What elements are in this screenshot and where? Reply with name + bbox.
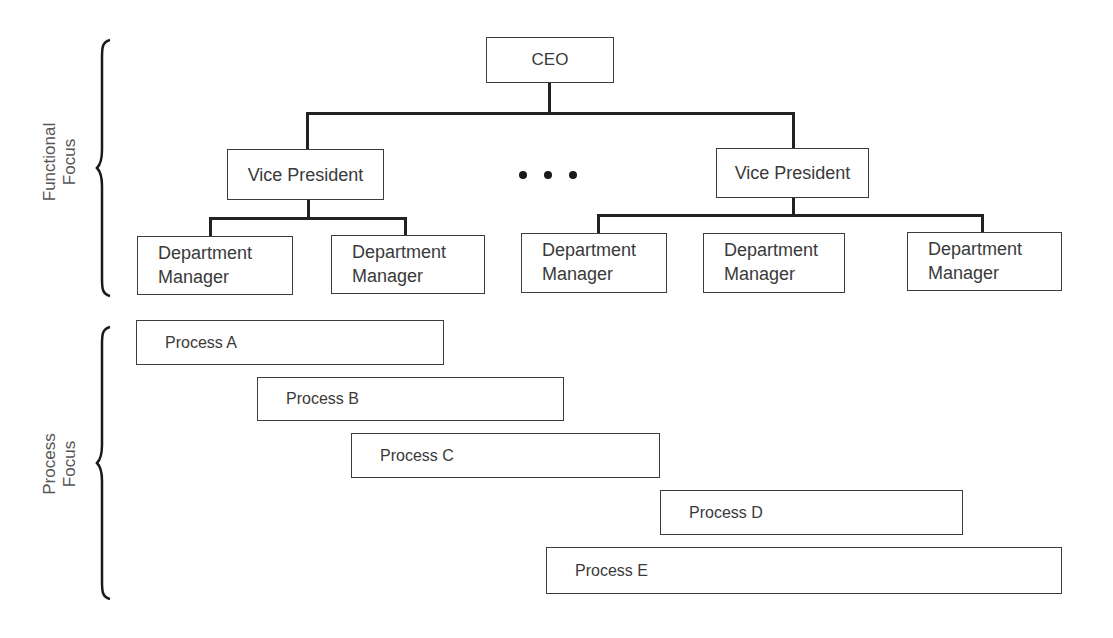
department-manager-box: Department Manager xyxy=(703,233,845,293)
vice-president-box-1: Vice President xyxy=(227,149,384,200)
vp2-drop-line xyxy=(792,112,795,148)
vp2-dm-bus-line xyxy=(597,214,984,217)
functional-focus-label-line2: Focus xyxy=(60,112,80,212)
dm5-drop-line xyxy=(981,214,984,232)
dm3-drop-line xyxy=(597,214,600,233)
dm-line2: Manager xyxy=(352,264,484,288)
process-focus-label: Process Focus xyxy=(40,414,84,514)
dm-line1: Department xyxy=(542,238,666,262)
process-label: Process B xyxy=(286,388,359,410)
dm1-drop-line xyxy=(209,217,212,236)
dm-line1: Department xyxy=(352,240,484,264)
vp1-dm-bus-line xyxy=(209,217,407,220)
department-manager-box: Department Manager xyxy=(521,233,667,293)
ceo-box: CEO xyxy=(486,37,614,83)
ceo-label: CEO xyxy=(532,49,569,71)
department-manager-box: Department Manager xyxy=(331,235,485,294)
vp1-drop-line xyxy=(306,112,309,149)
process-focus-label-line2: Focus xyxy=(60,414,80,514)
process-focus-brace-icon xyxy=(96,325,116,601)
process-focus-label-line1: Process xyxy=(40,414,60,514)
process-label: Process A xyxy=(165,332,237,354)
dm2-drop-line xyxy=(404,217,407,235)
dm-line1: Department xyxy=(724,238,844,262)
process-b-box: Process B xyxy=(257,377,564,421)
dm-line2: Manager xyxy=(158,265,292,289)
dm-line1: Department xyxy=(158,241,292,265)
department-manager-box: Department Manager xyxy=(907,232,1062,291)
process-c-box: Process C xyxy=(351,433,660,478)
process-label: Process D xyxy=(689,502,763,524)
dm-line1: Department xyxy=(928,237,1061,261)
functional-focus-label: Functional Focus xyxy=(40,112,84,212)
dm-line2: Manager xyxy=(724,262,844,286)
process-label: Process E xyxy=(575,560,648,582)
process-label: Process C xyxy=(380,445,454,467)
process-e-box: Process E xyxy=(546,547,1062,594)
functional-focus-label-line1: Functional xyxy=(40,112,60,212)
vice-president-box-2: Vice President xyxy=(716,148,869,198)
dm-line2: Manager xyxy=(542,262,666,286)
process-a-box: Process A xyxy=(136,320,444,365)
process-d-box: Process D xyxy=(660,490,963,535)
ceo-stem-line xyxy=(548,82,551,114)
vice-president-label: Vice President xyxy=(735,162,851,184)
dm-line2: Manager xyxy=(928,261,1061,285)
vp-bus-line xyxy=(306,112,794,115)
vice-president-label: Vice President xyxy=(248,164,364,186)
functional-focus-brace-icon xyxy=(96,38,116,298)
vp1-stem-line xyxy=(307,199,310,219)
department-manager-box: Department Manager xyxy=(137,236,293,295)
